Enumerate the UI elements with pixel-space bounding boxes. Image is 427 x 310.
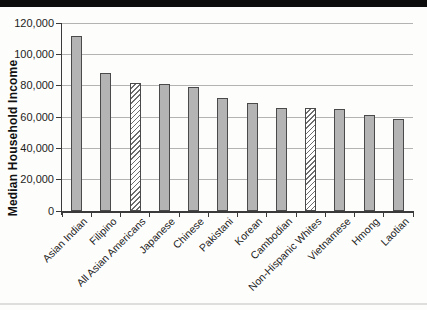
x-label-hmong: Hmong	[349, 215, 381, 247]
x-axis-tick	[149, 213, 150, 218]
x-axis-tick	[266, 213, 267, 218]
x-axis-tick	[413, 213, 414, 218]
x-axis-tick	[62, 213, 63, 218]
y-axis-tick	[56, 148, 61, 149]
x-axis-tick	[179, 213, 180, 218]
x-label-asian-indian: Asian Indian	[40, 215, 89, 264]
bar-vietnamese	[334, 109, 345, 211]
page-bleed-line	[0, 303, 427, 305]
y-tick-label: 80,000	[0, 79, 54, 92]
bar-non-hispanic-whites	[305, 108, 316, 211]
x-axis-tick	[325, 213, 326, 218]
x-axis-tick	[383, 213, 384, 218]
bar-japanese	[159, 84, 170, 211]
x-axis-tick	[354, 213, 355, 218]
bar-korean	[247, 103, 258, 211]
x-axis-tick	[120, 213, 121, 218]
y-axis-tick	[56, 23, 61, 24]
y-tick-label: 100,000	[0, 48, 54, 61]
gridline-60,000	[62, 117, 413, 118]
gridline-20,000	[62, 179, 413, 180]
x-axis-tick	[91, 213, 92, 218]
y-tick-label: 120,000	[0, 17, 54, 30]
bar-cambodian	[276, 108, 287, 211]
y-axis-line	[61, 23, 63, 215]
bar-asian-indian	[71, 36, 82, 211]
gridline-40,000	[62, 148, 413, 149]
bar-hmong	[364, 115, 375, 211]
bar-pakistani	[217, 98, 228, 211]
y-tick-label: 0	[0, 205, 54, 218]
bar-chinese	[188, 87, 199, 211]
y-axis-tick	[56, 211, 61, 212]
bar-filipino	[100, 73, 111, 211]
x-label-laotian: Laotian	[378, 215, 411, 248]
x-axis-tick	[237, 213, 238, 218]
gridline-80,000	[62, 85, 413, 86]
page-header-banner	[0, 0, 427, 7]
gridline-120,000	[62, 23, 413, 24]
x-axis-tick	[296, 213, 297, 218]
plot-area: Median Household Income 020,00040,00060,…	[62, 23, 413, 211]
x-axis-tick	[208, 213, 209, 218]
bar-all-asian-americans	[130, 83, 141, 211]
y-tick-label: 40,000	[0, 142, 54, 155]
y-axis-tick	[56, 54, 61, 55]
y-axis-tick	[56, 179, 61, 180]
bar-laotian	[393, 119, 404, 211]
y-axis-tick	[56, 117, 61, 118]
y-axis-tick	[56, 85, 61, 86]
gridline-100,000	[62, 54, 413, 55]
y-tick-label: 20,000	[0, 173, 54, 186]
y-tick-label: 60,000	[0, 111, 54, 124]
